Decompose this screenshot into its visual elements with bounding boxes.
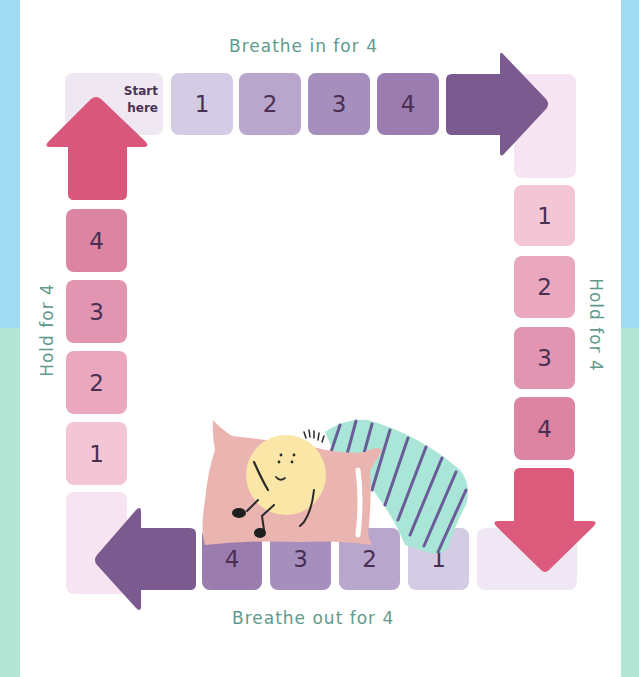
board-graphics [0,0,639,677]
arrow-down-icon [494,468,595,572]
start-here-label: Start here [110,83,158,117]
sleeping-character-illustration [203,420,469,554]
arrow-right-icon [446,53,548,156]
start-label-line2: here [110,100,158,117]
start-label-line1: Start [110,83,158,100]
arrow-left-icon [95,508,196,610]
